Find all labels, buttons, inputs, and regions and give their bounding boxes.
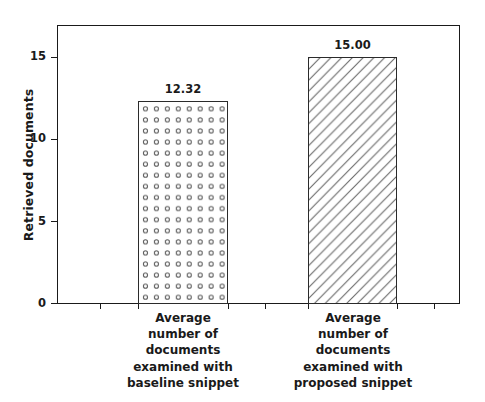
y-tick-label-15: 15 (2, 49, 46, 63)
bar-value-label-baseline: 12.32 (138, 82, 228, 96)
cat1-line0: Average (264, 310, 442, 326)
bar-proposed-snippet[interactable] (308, 57, 397, 304)
bar-value-label-proposed: 15.00 (308, 38, 397, 52)
cat0-line2: documents (94, 342, 272, 358)
x-tick-mark-5 (308, 304, 309, 309)
y-tick-label-5: 5 (2, 214, 46, 228)
x-category-label-proposed: Average number of documents examined wit… (264, 310, 442, 391)
y-tick-label-10: 10 (2, 131, 46, 145)
x-category-label-baseline: Average number of documents examined wit… (94, 310, 272, 391)
cat0-line0: Average (94, 310, 272, 326)
x-tick-mark-2 (138, 304, 139, 309)
plot-area (57, 25, 460, 304)
cat1-line4: proposed snippet (264, 375, 442, 391)
circle-hatch-pattern-icon (139, 102, 227, 303)
cat0-line1: number of (94, 326, 272, 342)
cat0-line3: examined with (94, 359, 272, 375)
cat1-line1: number of (264, 326, 442, 342)
x-tick-mark-1 (100, 304, 101, 309)
x-tick-mark-4 (265, 304, 266, 309)
diagonal-hatch-pattern-icon (309, 58, 396, 303)
y-tick-label-0: 0 (2, 296, 46, 310)
cat1-line3: examined with (264, 359, 442, 375)
cat1-line2: documents (264, 342, 442, 358)
bar-baseline-snippet[interactable] (138, 101, 228, 304)
x-tick-mark-6 (397, 304, 398, 309)
x-tick-mark-7 (434, 304, 435, 309)
bar-chart-figure: Retrieved documents 15 10 5 0 (0, 0, 485, 402)
cat0-line4: baseline snippet (94, 375, 272, 391)
x-tick-mark-3 (228, 304, 229, 309)
